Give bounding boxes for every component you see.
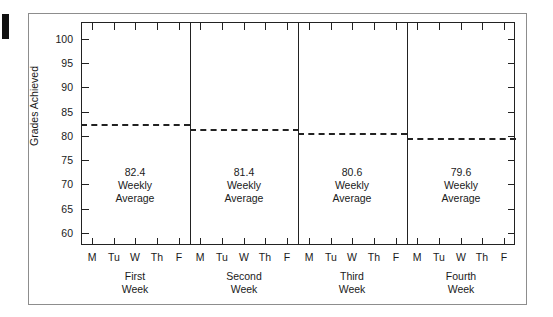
x-axis-tick-top <box>287 23 288 30</box>
x-axis-tick-bottom <box>352 238 353 245</box>
x-axis-tick-top <box>244 23 245 30</box>
week-group-caption: SecondWeek <box>199 270 289 296</box>
weekly-average-value: 79.6 <box>416 166 506 179</box>
x-axis-tick-bottom <box>222 238 223 245</box>
x-axis-tick-bottom <box>331 238 332 245</box>
y-axis-tick <box>82 184 89 185</box>
x-axis-tick-top <box>352 23 353 30</box>
x-axis-tick-top <box>439 23 440 30</box>
y-axis-tick <box>82 233 89 234</box>
week-caption-word: Week <box>416 283 506 296</box>
week-group-caption: FourthWeek <box>416 270 506 296</box>
week-caption-ordinal: Second <box>199 270 289 283</box>
weekly-average-annotation: 79.6WeeklyAverage <box>416 166 506 205</box>
y-axis-label: 90 <box>39 82 73 93</box>
y-axis-tick <box>82 136 89 137</box>
y-axis-tick-right <box>508 160 515 161</box>
x-axis-tick-bottom <box>200 238 201 245</box>
x-axis-tick-top <box>157 23 158 30</box>
y-axis-label: 80 <box>39 131 73 142</box>
x-axis-tick-top <box>222 23 223 30</box>
y-axis-tick <box>82 87 89 88</box>
weekly-average-caption-line1: Weekly <box>307 179 397 192</box>
week-separator <box>407 22 408 245</box>
x-axis-tick-bottom <box>135 238 136 245</box>
x-axis-tick-bottom <box>482 238 483 245</box>
weekly-average-line <box>81 124 190 126</box>
weekly-average-caption-line1: Weekly <box>416 179 506 192</box>
weekly-average-value: 81.4 <box>199 166 289 179</box>
y-axis-tick-right <box>508 87 515 88</box>
y-axis-tick-right <box>508 39 515 40</box>
x-axis-tick-top <box>135 23 136 30</box>
week-separator <box>190 22 191 245</box>
y-axis-tick-right <box>508 184 515 185</box>
x-axis-tick-bottom <box>287 238 288 245</box>
y-axis-tick-right <box>508 136 515 137</box>
x-axis-tick-bottom <box>439 238 440 245</box>
weekly-average-line <box>190 129 299 131</box>
week-caption-ordinal: Fourth <box>416 270 506 283</box>
x-axis-tick-top <box>417 23 418 30</box>
x-axis-tick-top <box>309 23 310 30</box>
x-axis-tick-bottom <box>179 238 180 245</box>
y-axis-label: 100 <box>39 34 73 45</box>
x-axis-tick-top <box>374 23 375 30</box>
weekly-average-caption-line1: Weekly <box>199 179 289 192</box>
week-caption-word: Week <box>90 283 180 296</box>
y-axis-tick <box>82 112 89 113</box>
x-axis-tick-bottom <box>504 238 505 245</box>
x-axis-tick-bottom <box>417 238 418 245</box>
weekly-average-value: 80.6 <box>307 166 397 179</box>
week-group-caption: ThirdWeek <box>307 270 397 296</box>
y-axis-tick-right <box>508 209 515 210</box>
x-axis-tick-top <box>265 23 266 30</box>
y-axis-label: 70 <box>39 179 73 190</box>
x-axis-tick-top <box>200 23 201 30</box>
weekly-average-value: 82.4 <box>90 166 180 179</box>
x-axis-tick-bottom <box>157 238 158 245</box>
x-axis-tick-top <box>179 23 180 30</box>
x-axis-tick-top <box>482 23 483 30</box>
weekly-average-line <box>407 138 516 140</box>
week-group-caption: FirstWeek <box>90 270 180 296</box>
grades-achieved-chart: Grades Achieved 6065707580859095100MTuWT… <box>0 0 553 317</box>
y-axis-label: 75 <box>39 155 73 166</box>
weekly-average-caption-line2: Average <box>416 192 506 205</box>
x-axis-tick-bottom <box>92 238 93 245</box>
y-axis-tick-right <box>508 63 515 64</box>
y-axis-label: 60 <box>39 228 73 239</box>
weekly-average-annotation: 82.4WeeklyAverage <box>90 166 180 205</box>
x-axis-tick-bottom <box>309 238 310 245</box>
x-axis-tick-top <box>504 23 505 30</box>
weekly-average-caption-line2: Average <box>199 192 289 205</box>
x-axis-tick-top <box>114 23 115 30</box>
x-axis-tick-bottom <box>114 238 115 245</box>
x-axis-tick-bottom <box>374 238 375 245</box>
x-axis-tick-top <box>92 23 93 30</box>
week-caption-ordinal: Third <box>307 270 397 283</box>
y-axis-tick-right <box>508 112 515 113</box>
x-axis-tick-top <box>461 23 462 30</box>
weekly-average-caption-line1: Weekly <box>90 179 180 192</box>
x-axis-day-label: F <box>491 252 517 263</box>
week-caption-word: Week <box>199 283 289 296</box>
x-axis-tick-bottom <box>396 238 397 245</box>
y-axis-tick <box>82 39 89 40</box>
weekly-average-caption-line2: Average <box>90 192 180 205</box>
weekly-average-annotation: 80.6WeeklyAverage <box>307 166 397 205</box>
weekly-average-line <box>298 133 407 135</box>
week-caption-word: Week <box>307 283 397 296</box>
y-axis-label: 95 <box>39 58 73 69</box>
y-axis-label: 65 <box>39 204 73 215</box>
y-axis-tick <box>82 63 89 64</box>
weekly-average-annotation: 81.4WeeklyAverage <box>199 166 289 205</box>
x-axis-tick-bottom <box>244 238 245 245</box>
x-axis-tick-top <box>331 23 332 30</box>
y-axis-tick <box>82 160 89 161</box>
x-axis-tick-bottom <box>461 238 462 245</box>
weekly-average-caption-line2: Average <box>307 192 397 205</box>
x-axis-tick-top <box>396 23 397 30</box>
x-axis-tick-bottom <box>265 238 266 245</box>
y-axis-tick-right <box>508 233 515 234</box>
